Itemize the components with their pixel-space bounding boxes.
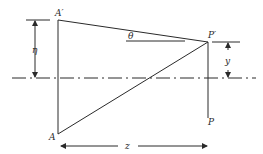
ray-a-to-p-prime bbox=[58, 42, 208, 134]
label-p: P bbox=[207, 117, 215, 127]
label-a: A bbox=[48, 132, 56, 142]
label-y: y bbox=[224, 56, 231, 66]
label-eta: η bbox=[32, 45, 38, 55]
label-a-prime: A′ bbox=[54, 8, 64, 18]
geometry-diagram: A′ A P′ P θ η y z bbox=[0, 0, 263, 154]
label-theta: θ bbox=[128, 31, 134, 41]
label-z: z bbox=[124, 141, 130, 151]
label-p-prime: P′ bbox=[207, 30, 216, 40]
